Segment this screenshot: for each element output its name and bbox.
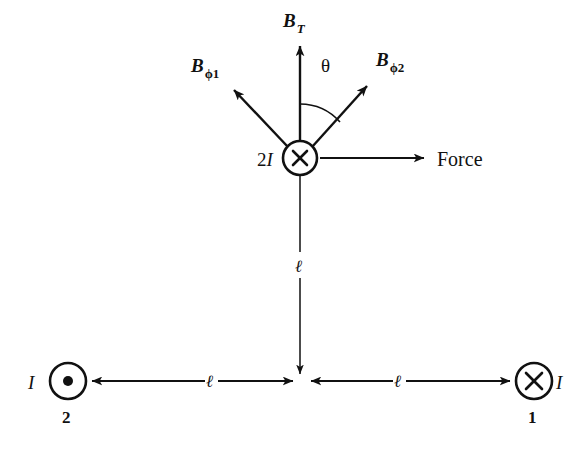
vertical-length-label: ℓ bbox=[295, 257, 302, 276]
b-phi2-arrow bbox=[312, 86, 367, 147]
diagram-canvas: BT Bϕ1 Bϕ2 θ Force 2I bbox=[0, 0, 583, 451]
left-length-label: ℓ bbox=[206, 372, 213, 391]
left-conductor bbox=[50, 363, 86, 399]
right-length-label: ℓ bbox=[394, 372, 401, 391]
b-phi2-label: Bϕ2 bbox=[375, 49, 404, 75]
center-conductor bbox=[283, 141, 317, 175]
force-label: Force bbox=[437, 148, 483, 170]
center-current-label: 2I bbox=[257, 149, 275, 170]
b-phi1-arrow-line bbox=[234, 90, 288, 147]
b-phi2-arrow-line bbox=[312, 86, 367, 147]
right-current-label: I bbox=[555, 372, 564, 393]
b-phi1-label: Bϕ1 bbox=[190, 55, 219, 81]
right-conductor-index: 1 bbox=[528, 408, 537, 427]
b-total-label: BT bbox=[282, 10, 306, 36]
left-current-label: I bbox=[27, 372, 36, 393]
dot-out-of-page-icon bbox=[63, 376, 73, 386]
theta-label: θ bbox=[321, 55, 330, 76]
physics-diagram: BT Bϕ1 Bϕ2 θ Force 2I bbox=[0, 0, 583, 451]
b-phi1-arrow bbox=[234, 90, 288, 147]
right-conductor bbox=[516, 363, 552, 399]
theta-angle-arc bbox=[300, 104, 340, 122]
left-conductor-index: 2 bbox=[62, 408, 71, 427]
